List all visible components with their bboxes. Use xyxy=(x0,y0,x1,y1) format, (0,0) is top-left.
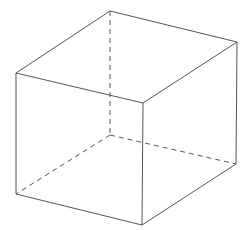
hidden-edge-back-bottom-to-right-bottom xyxy=(110,135,236,164)
edge-right-top-to-front-top xyxy=(143,42,237,103)
edge-back-top-to-right-top xyxy=(110,11,237,42)
edge-right-top-to-right-bottom xyxy=(236,42,237,164)
hidden-edge-back-bottom-to-left-bottom xyxy=(16,135,110,194)
hidden-edges xyxy=(16,11,236,194)
edge-front-top-to-front-bottom xyxy=(142,103,143,225)
visible-edges xyxy=(16,11,237,225)
edge-back-top-to-left-top xyxy=(16,11,110,73)
cube-diagram xyxy=(0,0,249,230)
edge-front-bottom-to-right-bottom xyxy=(142,164,236,225)
edge-left-bottom-to-front-bottom xyxy=(16,194,142,225)
edge-left-top-to-front-top xyxy=(16,73,143,103)
